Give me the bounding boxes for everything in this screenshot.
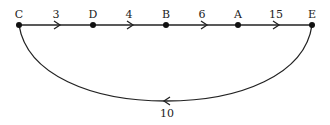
node-C [16, 22, 22, 28]
edge-weight-C-D: 3 [53, 8, 60, 21]
edge-weight-D-B: 4 [126, 8, 133, 21]
node-B [163, 22, 169, 28]
edge-weight-B-A: 6 [199, 8, 206, 21]
node-D [90, 22, 96, 28]
node-A [235, 22, 241, 28]
node-label-B: B [162, 8, 170, 21]
edge-weight-E-C: 10 [160, 107, 174, 120]
node-label-E: E [308, 8, 316, 21]
node-label-D: D [89, 8, 98, 21]
edge-E-C [19, 25, 312, 101]
graph-diagram: C D B A E 3 4 6 15 10 [0, 0, 330, 125]
node-label-A: A [233, 8, 243, 21]
node-label-C: C [15, 8, 23, 21]
node-E [309, 22, 315, 28]
edge-weight-A-E: 15 [269, 8, 283, 21]
